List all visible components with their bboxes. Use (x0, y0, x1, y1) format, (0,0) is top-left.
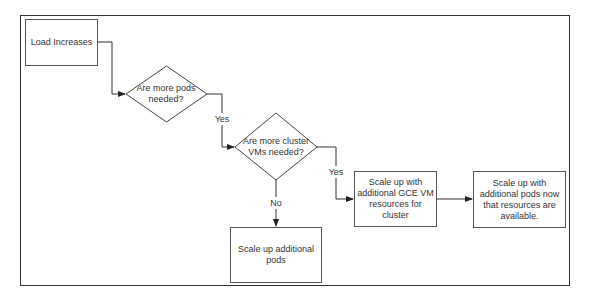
edge-load-to-pods (98, 42, 125, 94)
node-load-increases: Load Increases (25, 19, 98, 66)
node-scale-up-pods: Scale up additional pods (230, 227, 322, 283)
node-scale-up-pods-text: Scale up additional pods (233, 244, 319, 266)
node-load-increases-text: Load Increases (31, 37, 93, 48)
node-scale-up-gce-vm-text: Scale up with additional GCE VM resource… (357, 177, 434, 221)
decision-vms-needed-text: Are more cluster VMs needed? (243, 136, 309, 158)
flowchart-canvas: Load Increases Are more pods needed? Are… (0, 0, 589, 301)
decision-vms-line2: VMs needed? (243, 147, 309, 158)
edge-label-no: No (270, 197, 282, 209)
decision-pods-needed-text: Are more pods needed? (136, 83, 195, 105)
node-scale-up-pods-after-text: Scale up with additional pods now that r… (476, 178, 563, 222)
edge-label-yes-2: Yes (329, 166, 344, 178)
node-scale-up-gce-vm: Scale up with additional GCE VM resource… (354, 171, 437, 227)
decision-vms-line1: Are more cluster (243, 136, 309, 147)
decision-pods-line2: needed? (136, 94, 195, 105)
edge-label-yes-1: Yes (215, 113, 230, 125)
node-scale-up-pods-after: Scale up with additional pods now that r… (473, 171, 566, 228)
decision-pods-line1: Are more pods (136, 83, 195, 94)
